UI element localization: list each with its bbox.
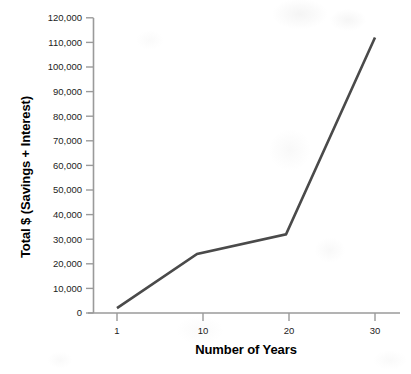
- y-tick-label: 90,000: [53, 86, 82, 97]
- data-series-line: [117, 37, 375, 308]
- y-tick-label: 30,000: [53, 234, 82, 245]
- x-tick-label: 10: [198, 325, 209, 336]
- y-tick-label: 20,000: [53, 258, 82, 269]
- y-axis-title: Total $ (Savings + Interest): [18, 96, 33, 258]
- y-tick-label: 0: [77, 307, 82, 318]
- y-tick-label: 80,000: [53, 111, 82, 122]
- x-tick-label: 20: [284, 325, 295, 336]
- y-tick-label: 110,000: [48, 37, 82, 48]
- y-tick-label: 40,000: [53, 209, 82, 220]
- y-tick-label: 120,000: [48, 12, 82, 23]
- x-axis-title: Number of Years: [195, 342, 297, 357]
- y-axis-ticks: [86, 18, 94, 313]
- x-tick-label: 1: [114, 325, 119, 336]
- x-axis-ticks: [117, 313, 375, 321]
- chart-plot-area: Total $ (Savings + Interest) Number of Y…: [0, 0, 411, 374]
- y-tick-label: 50,000: [53, 184, 82, 195]
- savings-growth-line-chart: Total $ (Savings + Interest) Number of Y…: [0, 0, 411, 374]
- x-axis-tick-labels: 1 10 20 30: [114, 325, 380, 336]
- y-tick-label: 10,000: [53, 283, 82, 294]
- x-tick-label: 30: [370, 325, 381, 336]
- y-tick-label: 60,000: [53, 160, 82, 171]
- y-axis-tick-labels: 0 10,000 20,000 30,000 40,000 50,000 60,…: [48, 12, 82, 318]
- y-tick-label: 100,000: [48, 61, 82, 72]
- y-tick-label: 70,000: [53, 135, 82, 146]
